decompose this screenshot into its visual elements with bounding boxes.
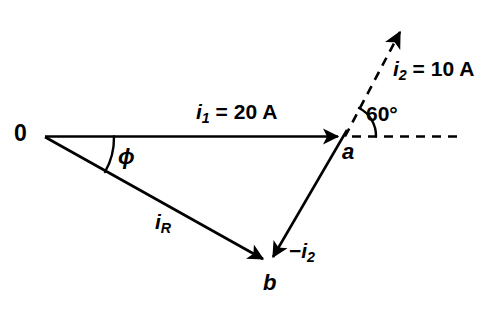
vector-iR-line [45,137,263,259]
vector-minus-i2-line [273,130,347,257]
label-vector-minus-i2: −i2 [289,240,315,261]
phasor-diagram-figure: 0 i1 = 20 A i2 = 10 A 60° a ϕ iR −i2 b [0,0,496,313]
phasor-diagram-canvas [0,0,496,313]
label-vector-i1: i1 = 20 A [196,101,277,122]
angle-arc-phi [105,137,114,173]
label-vector-i2: i2 = 10 A [393,58,474,79]
label-point-b: b [263,272,276,294]
label-point-a: a [342,141,354,163]
label-vector-iR: iR [155,211,171,232]
label-angle-60: 60° [366,103,398,124]
label-angle-phi: ϕ [118,146,135,168]
label-origin: 0 [14,122,27,145]
